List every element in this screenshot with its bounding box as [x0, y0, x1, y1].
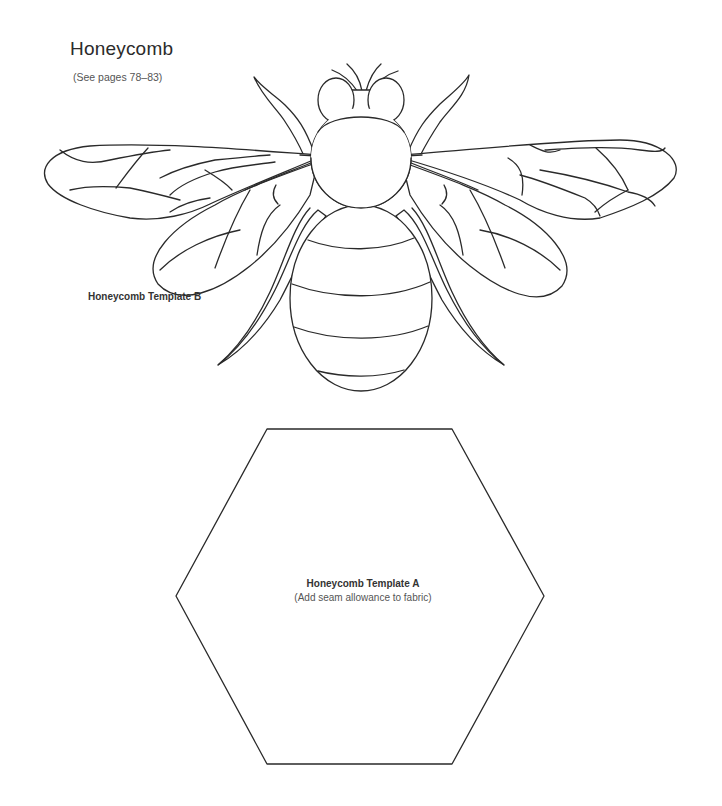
template-a-caption: Honeycomb Template A (Add seam allowance…	[260, 577, 466, 605]
template-a-label: Honeycomb Template A	[260, 577, 466, 591]
template-a-note: (Add seam allowance to fabric)	[260, 591, 466, 605]
template-b-label: Honeycomb Template B	[88, 291, 201, 302]
bee-template-b	[45, 64, 677, 391]
template-drawings	[0, 0, 722, 806]
bee-abdomen	[290, 205, 432, 391]
